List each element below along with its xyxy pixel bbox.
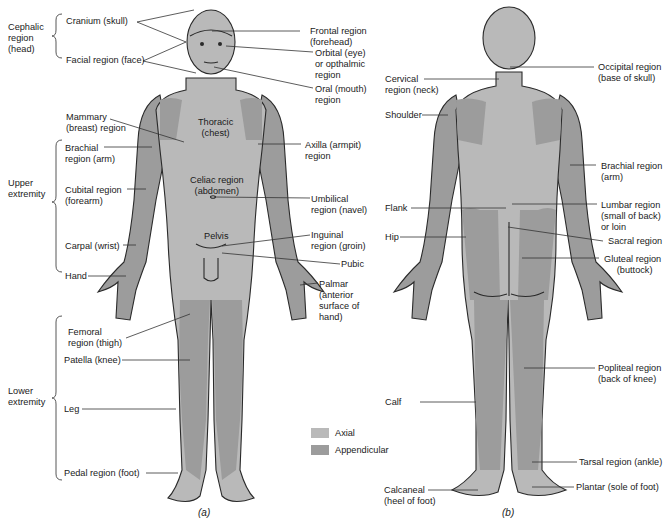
caption-anterior: (a) bbox=[198, 507, 210, 518]
label-cubital-region: Cubital region (forearm) bbox=[65, 185, 122, 207]
label-femoral-region: Femoral region (thigh) bbox=[68, 327, 122, 349]
label-cervical-region: Cervical region (neck) bbox=[385, 74, 439, 96]
group-cephalic-region: Cephalic region (head) bbox=[8, 22, 44, 55]
label-tarsal-region: Tarsal region (ankle) bbox=[579, 457, 662, 468]
legend-label-appendicular: Appendicular bbox=[335, 445, 389, 456]
label-flank: Flank bbox=[385, 203, 407, 214]
label-brachial-region-posterior: Brachial region (arm) bbox=[601, 161, 662, 183]
group-braces bbox=[52, 14, 62, 480]
label-celiac-region: Celiac region (abdomen) bbox=[190, 175, 244, 197]
legend-swatch-axial bbox=[311, 428, 329, 438]
label-sacral-region: Sacral region bbox=[608, 236, 662, 247]
label-carpal: Carpal (wrist) bbox=[65, 241, 120, 252]
label-umbilical-region: Umbilical region (navel) bbox=[311, 194, 367, 216]
label-thoracic: Thoracic (chest) bbox=[198, 117, 233, 139]
label-calf: Calf bbox=[385, 397, 401, 408]
group-lower-extremity: Lower extremity bbox=[8, 386, 45, 408]
label-oral-region: Oral (mouth) region bbox=[315, 84, 367, 106]
label-mammary-region: Mammary (breast) region bbox=[66, 112, 126, 134]
label-pedal-region: Pedal region (foot) bbox=[64, 468, 140, 479]
label-axilla-region: Axilla (armpit) region bbox=[305, 140, 361, 162]
label-calcaneal: Calcaneal (heel of foot) bbox=[384, 485, 436, 507]
label-plantar: Plantar (sole of foot) bbox=[576, 482, 659, 493]
label-facial-region: Facial region (face) bbox=[66, 55, 145, 66]
label-cranium: Cranium (skull) bbox=[66, 16, 128, 27]
label-patella: Patella (knee) bbox=[64, 355, 121, 366]
label-orbital-region: Orbital (eye) or opthalmic region bbox=[315, 48, 366, 81]
group-upper-extremity: Upper extremity bbox=[8, 178, 45, 200]
label-brachial-region: Brachial region (arm) bbox=[65, 143, 115, 165]
legend-swatch-appendicular bbox=[311, 445, 329, 455]
label-palmar: Palmar (anterior surface of hand) bbox=[319, 279, 359, 323]
label-hand: Hand bbox=[65, 271, 87, 282]
label-gluteal-region: Gluteal region (buttock) bbox=[604, 254, 661, 276]
label-pelvis: Pelvis bbox=[204, 231, 229, 242]
label-hip: Hip bbox=[385, 232, 399, 243]
caption-posterior: (b) bbox=[502, 507, 514, 518]
label-leg: Leg bbox=[64, 404, 79, 415]
label-frontal-region: Frontal region (forehead) bbox=[310, 26, 367, 48]
label-shoulder: Shoulder bbox=[385, 110, 422, 121]
label-pubic: Pubic bbox=[341, 259, 364, 270]
label-inguinal-region: Inguinal region (groin) bbox=[311, 230, 366, 252]
label-occipital-region: Occipital region (base of skull) bbox=[598, 62, 661, 84]
legend-label-axial: Axial bbox=[335, 428, 355, 439]
label-lumbar-region: Lumbar region (small of back) or loin bbox=[601, 200, 661, 233]
label-popliteal-region: Popliteal region (back of knee) bbox=[598, 363, 661, 385]
anterior-body bbox=[98, 10, 324, 502]
